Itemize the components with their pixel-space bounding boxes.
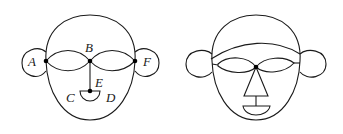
left-face-figure: A B E C D F	[22, 15, 159, 120]
vertex-B	[88, 59, 93, 64]
center-vertex	[254, 65, 259, 70]
label-D: D	[105, 90, 116, 105]
right-figure-mouth	[243, 106, 270, 115]
label-C: C	[66, 90, 75, 105]
label-F: F	[142, 54, 152, 69]
left-eye	[46, 51, 90, 71]
right-figure-right-eye	[256, 58, 294, 72]
right-figure-left-eye	[218, 58, 256, 73]
label-A: A	[27, 54, 36, 69]
right-figure-right-ear	[300, 50, 326, 77]
label-B: B	[85, 40, 93, 55]
eye-line-left	[212, 64, 218, 65]
vertex-E	[88, 89, 93, 94]
diagram-canvas: A B E C D F	[0, 0, 343, 134]
right-face-figure	[186, 15, 326, 120]
label-E: E	[94, 75, 103, 90]
right-figure-left-ear	[186, 50, 212, 77]
forehead-band	[211, 43, 300, 59]
vertex-F	[133, 59, 138, 64]
right-eye	[90, 51, 135, 71]
vertex-A	[44, 59, 49, 64]
